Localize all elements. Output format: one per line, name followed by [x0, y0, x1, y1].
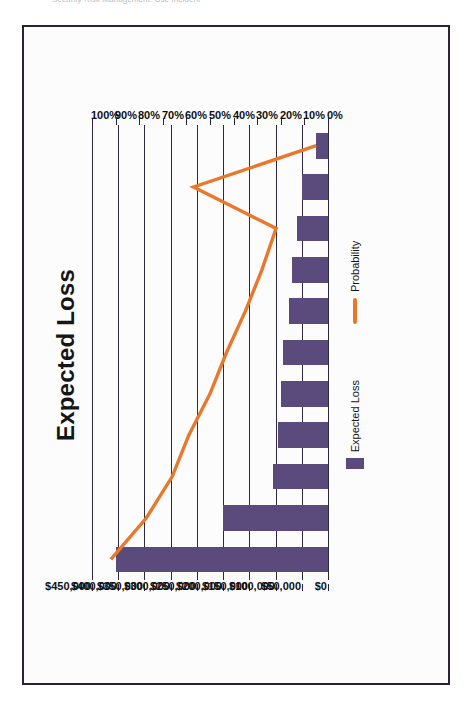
plot-area: $450,000$400,000$350,000$300,000$250,000… — [92, 125, 328, 580]
chart-legend: Expected Loss Probability — [346, 75, 364, 635]
page-caption: Security Risk Management: Use Incident — [52, 0, 392, 7]
chart-stage: Expected Loss $450,000$400,000$350,000$3… — [46, 75, 426, 635]
legend-label-expected-loss: Expected Loss — [349, 380, 361, 452]
gridline-dollar — [328, 125, 329, 580]
legend-item-expected-loss: Expected Loss — [346, 380, 364, 469]
chart-figure-frame: Expected Loss $450,000$400,000$350,000$3… — [22, 25, 450, 685]
probability-polyline — [111, 146, 316, 560]
page-title: Expected Loss — [52, 75, 80, 635]
legend-label-probability: Probability — [349, 241, 361, 292]
tick-mark-dollar — [328, 584, 329, 591]
bar-swatch-icon — [346, 458, 364, 469]
probability-line-series — [92, 125, 328, 580]
legend-item-probability: Probability — [349, 241, 361, 324]
line-swatch-icon — [353, 298, 357, 324]
axis-tick-label-dollar: $0 — [281, 580, 327, 592]
